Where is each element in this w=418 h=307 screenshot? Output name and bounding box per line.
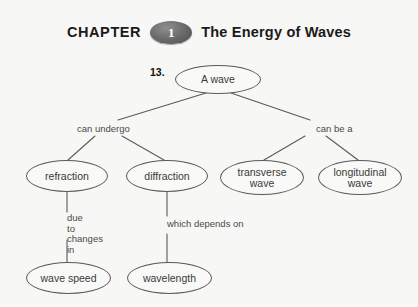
edge-root-can-be-a <box>231 93 310 120</box>
node-longitudinal-wave[interactable]: longitudinal wave <box>318 160 402 195</box>
edge-can-be-a-transverse <box>264 136 305 160</box>
node-wave-speed[interactable]: wave speed <box>26 262 111 294</box>
node-a-wave-label: A wave <box>201 74 235 85</box>
node-refraction-label: refraction <box>45 171 89 182</box>
node-transverse-wave[interactable]: transverse wave <box>220 160 304 195</box>
node-wave-speed-label: wave speed <box>40 273 96 284</box>
node-wavelength[interactable]: wavelength <box>127 262 212 294</box>
node-diffraction[interactable]: diffraction <box>126 160 208 192</box>
edge-can-undergo-diffraction <box>122 136 164 160</box>
worksheet-page: CHAPTER 1 The Energy of Waves <box>0 0 418 307</box>
edge-root-can-undergo <box>118 93 206 120</box>
question-number: 13. <box>150 66 165 78</box>
node-refraction[interactable]: refraction <box>26 160 108 192</box>
node-transverse-wave-label: transverse wave <box>237 167 286 189</box>
node-diffraction-label: diffraction <box>144 171 189 182</box>
edge-can-be-a-longitudinal <box>326 136 358 160</box>
node-wavelength-label: wavelength <box>143 273 196 284</box>
concept-map: 13. A wave refraction diffraction transv… <box>0 0 418 307</box>
node-longitudinal-wave-label: longitudinal wave <box>333 167 386 189</box>
edge-can-undergo-refraction <box>68 136 95 160</box>
connector-lines <box>0 0 418 307</box>
node-a-wave[interactable]: A wave <box>175 65 261 94</box>
